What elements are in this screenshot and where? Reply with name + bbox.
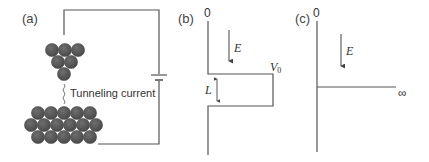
atom [70,106,83,119]
atom [57,106,70,119]
panel-b-energy-label: E [233,41,242,55]
panel-b-label: (b) [178,11,194,26]
battery-icon [151,75,167,80]
barrier-height-label: V0 [270,60,281,75]
atom [57,130,70,143]
atom [44,130,57,143]
atom [44,106,57,119]
panel-c: (c) 0 E ∞ [295,6,407,152]
panel-c-energy-label: E [345,44,354,58]
atom [76,118,89,131]
panel-b-zero-label: 0 [204,6,211,20]
panel-a-label: (a) [22,11,38,26]
panel-c-zero-label: 0 [313,6,320,20]
stm-diagram: (a) Tunneling current (b) 0 E V0 L [0,0,429,162]
tunneling-current-label: Tunneling current [70,87,155,99]
atom [89,118,102,131]
panel-a: (a) Tunneling current [22,10,167,144]
atom [31,106,44,119]
atom [83,106,96,119]
tip-atoms [45,43,84,80]
panel-c-label: (c) [295,11,310,26]
atom [24,118,37,131]
atom [37,118,50,131]
atom [83,130,96,143]
atom [70,130,83,143]
atom [71,43,84,56]
atom [50,118,63,131]
panel-b: (b) 0 E V0 L [178,6,281,155]
circuit-wire-top [64,10,159,74]
atom [31,130,44,143]
surface-atoms [24,106,102,143]
atom [51,55,64,68]
tunneling-squiggle-icon [63,84,65,104]
infinity-label: ∞ [398,86,407,100]
barrier-width-label: L [204,83,212,97]
atom [57,67,70,80]
atom [45,43,58,56]
atom [63,118,76,131]
atom [64,55,77,68]
atom [58,43,71,56]
